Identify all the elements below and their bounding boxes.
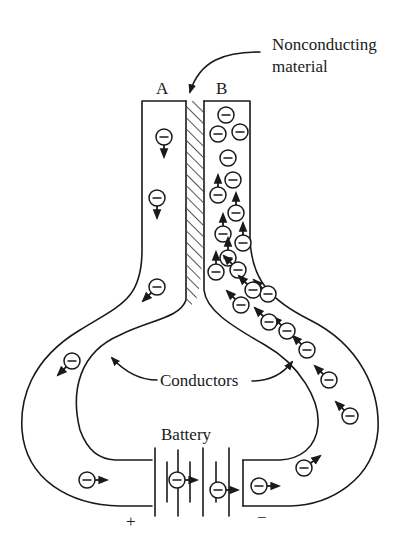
electron-direction-arrow (227, 291, 235, 299)
electron (143, 279, 165, 301)
electron-direction-arrow (143, 293, 151, 301)
electron (210, 482, 238, 498)
electron (169, 472, 197, 488)
electron (210, 126, 226, 142)
electron (296, 456, 320, 476)
conductor-a-outline (22, 101, 186, 506)
electron (315, 366, 337, 388)
label-plus-terminal: + (126, 512, 136, 531)
electron (232, 124, 248, 140)
electron (79, 472, 107, 488)
label-a: A (156, 79, 169, 98)
electron (239, 276, 261, 298)
label-b: B (216, 79, 227, 98)
electron-direction-arrow (255, 308, 263, 316)
electron (58, 353, 80, 375)
label-nonconducting: Nonconducting (272, 35, 377, 54)
electron (149, 190, 165, 218)
conductors-left-arrow (112, 358, 157, 380)
electron-direction-arrow (293, 336, 301, 344)
electron (156, 129, 172, 157)
electron-direction-arrow (239, 276, 247, 284)
electron (225, 172, 241, 188)
conductors-right-arrow (252, 362, 292, 381)
label-minus-terminal: − (257, 508, 267, 527)
electron (336, 402, 358, 424)
electron (255, 308, 277, 330)
label-material: material (272, 57, 328, 76)
electron-direction-arrow (310, 456, 320, 463)
battery-plates (155, 448, 243, 516)
electron (215, 214, 231, 242)
electron (235, 223, 251, 251)
electron-direction-arrow (58, 367, 66, 375)
conductor-diagram: A B Nonconducting material Conductors Ba… (0, 0, 418, 552)
diagram-canvas: A B Nonconducting material Conductors Ba… (0, 0, 418, 552)
electron (220, 150, 236, 166)
electron-direction-arrow (336, 402, 344, 410)
electron (228, 193, 244, 221)
electron-direction-arrow (315, 366, 323, 374)
nonconducting-strip (187, 101, 203, 310)
electron (210, 175, 226, 203)
electron (293, 336, 315, 358)
label-battery: Battery (161, 425, 212, 444)
electron (218, 107, 234, 123)
label-conductors: Conductors (160, 371, 238, 390)
electron (251, 478, 279, 494)
